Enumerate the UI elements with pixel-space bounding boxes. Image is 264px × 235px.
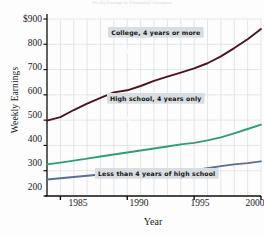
series-callout: High school, 4 years only [107,93,204,103]
chart-container: Weekly Earnings by Educational Attainmen… [0,0,264,235]
series-callout: College, 4 years or more [108,27,203,37]
series-callout: Less than 4 years of high school [95,168,218,178]
